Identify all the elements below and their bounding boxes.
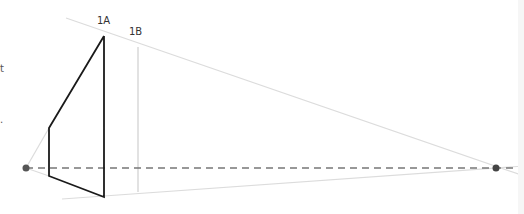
left-vp-lower-guide-line: [26, 168, 49, 176]
object-shape: [49, 36, 104, 197]
edge-text-fragment-dot: .: [0, 114, 3, 125]
bottom-guide-line: [62, 166, 524, 199]
perspective-diagram: 1A 1B t .: [0, 0, 524, 214]
guide-lines: [26, 18, 524, 199]
label-1b: 1B: [129, 26, 142, 37]
edge-text-fragment: t: [0, 63, 4, 74]
right-vanishing-point: [493, 165, 500, 172]
left-vanishing-point: [23, 165, 30, 172]
right-edge-strip: [518, 0, 524, 214]
left-vp-guide-line: [26, 128, 49, 168]
object-outline: [49, 36, 104, 197]
top-guide-line: [66, 18, 524, 176]
label-1a: 1A: [97, 15, 110, 26]
